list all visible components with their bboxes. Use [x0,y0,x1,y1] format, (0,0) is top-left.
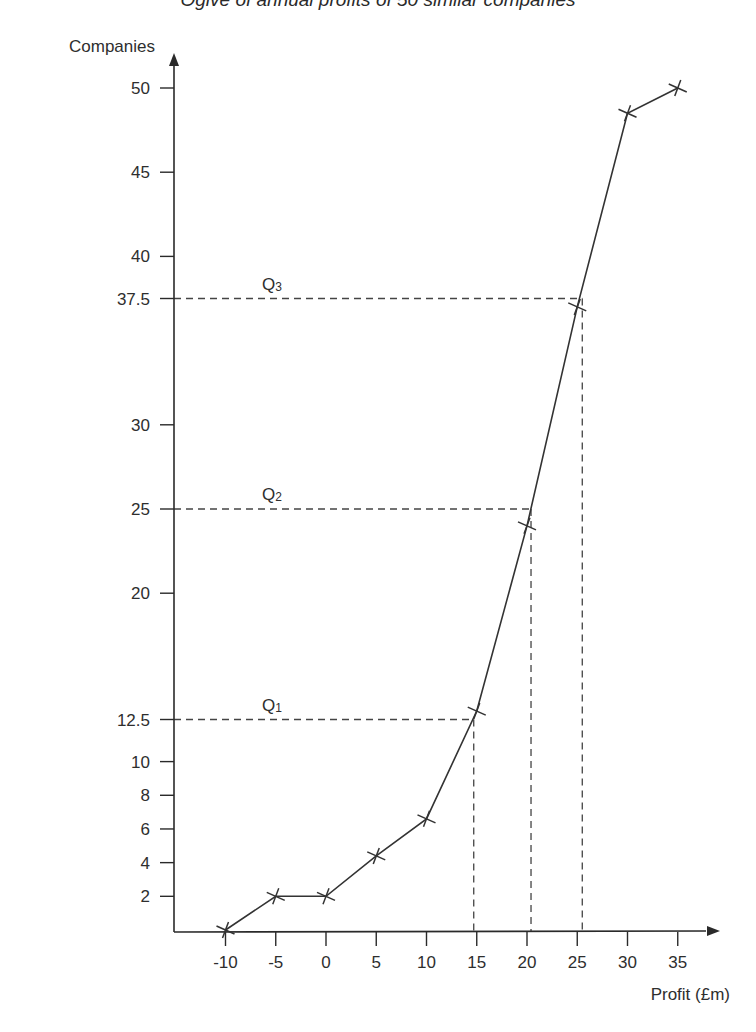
y-tick-label: 50 [131,79,150,98]
y-tick-label: 37.5 [117,290,150,309]
y-tick-label: 4 [141,854,150,873]
y-tick-label: 45 [131,163,150,182]
ogive-chart: Q1Q2Q3 24681012.520253037.5404550 -10-50… [0,0,756,1032]
y-tick-label: 6 [141,820,150,839]
data-point-x-marker-icon [669,80,687,96]
y-tick-label: 8 [141,786,150,805]
y-tick-label: 2 [141,887,150,906]
quartile-label: Q1 [262,696,282,715]
y-tick-label: 30 [131,416,150,435]
y-tick-label: 25 [131,500,150,519]
x-tick-label: 5 [372,953,381,972]
x-axis-ticks: -10-505101520253035 [213,932,687,972]
x-tick-label: 0 [321,953,330,972]
x-axis-label: Profit (£m) [651,985,730,1004]
y-axis-ticks: 24681012.520253037.5404550 [117,79,174,906]
y-tick-label: 20 [131,584,150,603]
x-axis-arrow-icon [707,926,720,936]
quartile-guides: Q1Q2Q3 [174,275,582,933]
data-point-x-marker-icon [568,299,586,315]
y-tick-label: 12.5 [117,711,150,730]
axes: 24681012.520253037.5404550 -10-505101520… [69,37,730,1004]
x-tick-label: 15 [467,953,486,972]
data-point-x-marker-icon [518,518,536,534]
quartile-label: Q3 [262,275,282,294]
y-tick-label: 10 [131,753,150,772]
x-tick-label: 10 [417,953,436,972]
data-point-x-marker-icon [468,703,486,719]
x-tick-label: 20 [518,953,537,972]
x-tick-label: 35 [668,953,687,972]
x-tick-label: 25 [568,953,587,972]
y-tick-label: 40 [131,247,150,266]
x-tick-label: -10 [213,953,238,972]
x-tick-label: 30 [618,953,637,972]
y-axis-label: Companies [69,37,155,56]
x-tick-label: -5 [268,953,283,972]
x-axis [174,931,706,932]
quartile-label: Q2 [262,485,282,504]
data-point-x-marker-icon [619,105,637,121]
y-axis-arrow-icon [169,53,179,66]
